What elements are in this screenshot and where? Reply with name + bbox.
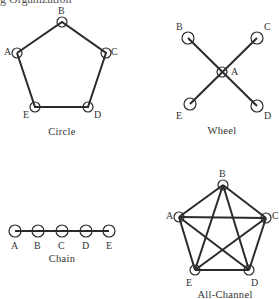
- allchannel-node-d-label: D: [251, 277, 258, 288]
- chain-node-b-label: B: [34, 240, 41, 251]
- wheel-node-b-label: B: [176, 21, 183, 32]
- allchannel-node-a-label: A: [166, 210, 173, 221]
- chain-node-a-label: A: [11, 240, 18, 251]
- wheel-node-e-label: E: [176, 110, 182, 121]
- chain-node-d-label: D: [82, 240, 89, 251]
- all-channel-network: [174, 180, 271, 275]
- circle-node-e-label: E: [23, 109, 29, 120]
- chain-caption: Chain: [30, 253, 94, 264]
- circle-node-d-label: D: [94, 109, 101, 120]
- allchannel-node-e-label: E: [186, 277, 192, 288]
- wheel-network: [182, 32, 263, 112]
- allchannel-caption: All-Channel: [180, 289, 270, 299]
- chain-node-c-label: C: [58, 240, 65, 251]
- chain-network: [9, 225, 115, 237]
- circle-network: [12, 17, 111, 112]
- allchannel-node-b-label: B: [219, 168, 226, 179]
- wheel-node-c-label: C: [264, 21, 271, 32]
- circle-caption: Circle: [30, 126, 94, 137]
- circle-node-a-label: A: [4, 46, 11, 57]
- wheel-node-a-label: A: [231, 66, 238, 77]
- wheel-node-d-label: D: [264, 110, 271, 121]
- chain-node-e-label: E: [106, 240, 112, 251]
- allchannel-node-c-label: C: [272, 210, 279, 221]
- circle-node-b-label: B: [58, 5, 65, 16]
- wheel-caption: Wheel: [190, 125, 254, 136]
- circle-node-c-label: C: [111, 46, 118, 57]
